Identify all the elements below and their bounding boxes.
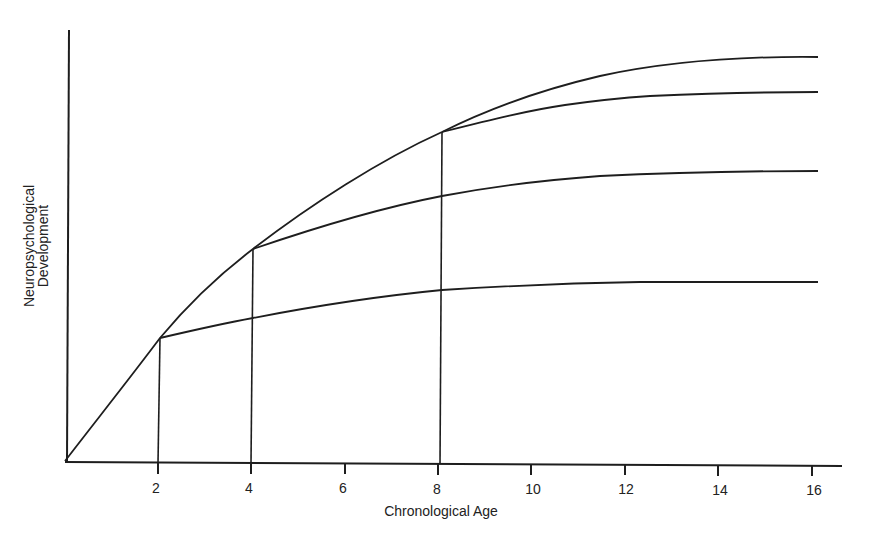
x-tick-labels: 2 4 6 8 10 12 14 16 (152, 480, 822, 498)
x-tick-label: 6 (339, 480, 347, 496)
x-tick-label: 12 (618, 481, 634, 497)
y-axis-title-line2: Development (35, 205, 51, 288)
x-tick-label: 16 (806, 482, 822, 498)
drop-line-age-2 (158, 338, 160, 463)
x-tick-label: 2 (152, 480, 160, 496)
x-tick-label: 8 (433, 481, 441, 497)
x-axis-title: Chronological Age (384, 503, 498, 519)
curve-injury-age-8 (442, 92, 818, 132)
x-axis (65, 462, 842, 466)
y-axis-title: Neuropsychological Development (21, 185, 51, 307)
curve-injury-age-4 (253, 171, 818, 249)
x-tick-label: 14 (712, 482, 728, 498)
x-tick-label: 4 (245, 480, 253, 496)
y-axis (67, 30, 69, 462)
drop-line-age-8 (440, 132, 442, 464)
drop-line-age-4 (251, 249, 253, 463)
x-tick-label: 10 (525, 481, 541, 497)
curve-injury-age-2 (160, 282, 818, 338)
chart-canvas: 2 4 6 8 10 12 14 16 Chronological Age Ne… (0, 0, 869, 544)
